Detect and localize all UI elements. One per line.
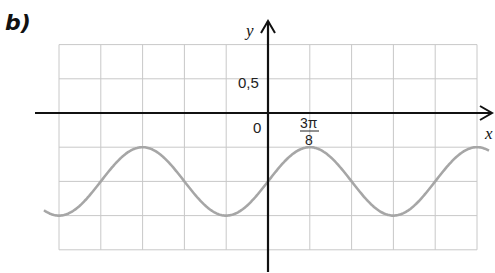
y-axis-label: y: [244, 21, 254, 40]
chart-figure: b) y x 0,5 0 3π 8: [0, 0, 495, 273]
chart-svg: b) y x 0,5 0 3π 8: [0, 0, 495, 273]
y-tick-label: 0,5: [238, 74, 259, 91]
x-tick-denominator: 8: [305, 132, 313, 148]
x-axis-label: x: [484, 124, 493, 143]
origin-label: 0: [253, 119, 261, 136]
part-label: b): [5, 10, 31, 35]
x-tick-numerator: 3π: [300, 115, 318, 131]
